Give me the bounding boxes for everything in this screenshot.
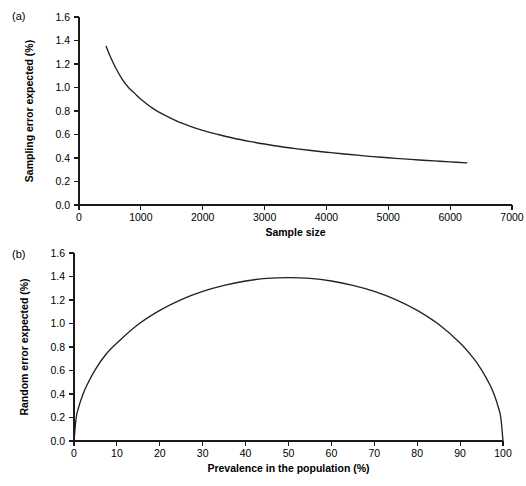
y-tick-label: 1.4 — [55, 34, 70, 46]
x-tick-label: 6000 — [438, 211, 462, 223]
x-tick-label: 100 — [494, 447, 512, 459]
x-tick-label: 50 — [283, 447, 295, 459]
y-tick-label: 1.0 — [55, 81, 70, 93]
x-tick-label: 80 — [411, 447, 423, 459]
y-tick-label: 0.6 — [50, 364, 65, 376]
x-tick-label: 70 — [368, 447, 380, 459]
data-curve — [74, 278, 503, 441]
x-tick-label: 7000 — [500, 211, 524, 223]
panel-b-plot: 0.00.20.40.60.81.01.21.41.60102030405060… — [0, 243, 526, 486]
x-tick-label: 0 — [76, 211, 82, 223]
y-tick-label: 0.2 — [55, 175, 70, 187]
x-tick-label: 30 — [197, 447, 209, 459]
x-tick-label: 1000 — [129, 211, 153, 223]
y-tick-label: 1.6 — [55, 11, 70, 23]
x-tick-label: 0 — [71, 447, 77, 459]
y-tick-label: 0.6 — [55, 128, 70, 140]
x-tick-label: 40 — [240, 447, 252, 459]
y-tick-label: 1.6 — [50, 247, 65, 259]
y-tick-label: 0.2 — [50, 411, 65, 423]
data-curve — [106, 46, 467, 162]
panel-a: (a) 0.00.20.40.60.81.01.21.41.6010002000… — [0, 0, 526, 243]
x-axis-title: Prevalence in the population (%) — [207, 462, 369, 474]
y-tick-label: 0.8 — [50, 341, 65, 353]
x-tick-label: 60 — [326, 447, 338, 459]
y-axis-title: Random error expected (%) — [18, 278, 30, 415]
x-axis-title: Sample size — [265, 226, 325, 238]
y-tick-label: 1.2 — [50, 294, 65, 306]
y-axis-title: Sampling error expected (%) — [23, 40, 35, 182]
y-tick-label: 1.4 — [50, 270, 65, 282]
figure: (a) 0.00.20.40.60.81.01.21.41.6010002000… — [0, 0, 526, 486]
x-tick-label: 5000 — [377, 211, 401, 223]
x-tick-label: 2000 — [191, 211, 215, 223]
y-tick-label: 1.2 — [55, 58, 70, 70]
y-tick-label: 0.0 — [50, 435, 65, 447]
x-tick-label: 3000 — [253, 211, 277, 223]
x-tick-label: 90 — [454, 447, 466, 459]
x-tick-label: 4000 — [315, 211, 339, 223]
y-tick-label: 1.0 — [50, 317, 65, 329]
y-tick-label: 0.4 — [55, 152, 70, 164]
y-tick-label: 0.4 — [50, 388, 65, 400]
panel-b: (b) 0.00.20.40.60.81.01.21.41.6010203040… — [0, 243, 526, 486]
y-tick-label: 0.0 — [55, 199, 70, 211]
x-tick-label: 10 — [111, 447, 123, 459]
panel-a-plot: 0.00.20.40.60.81.01.21.41.60100020003000… — [0, 0, 526, 243]
x-tick-label: 20 — [154, 447, 166, 459]
y-tick-label: 0.8 — [55, 105, 70, 117]
